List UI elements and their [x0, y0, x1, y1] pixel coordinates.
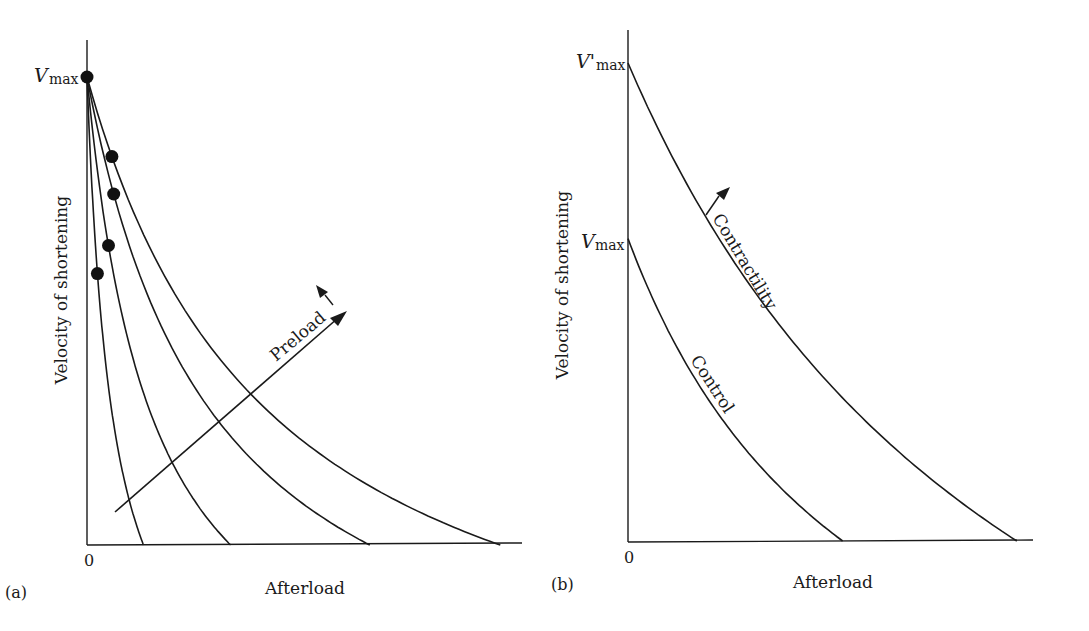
- panel-a-y-axis-label: Velocity of shortening: [51, 196, 71, 385]
- panel-b-curves: [628, 63, 1017, 541]
- panel-b-x-zero-tick: 0: [624, 548, 634, 567]
- panel-a-marker-preload-2: [102, 239, 115, 252]
- panel-a-marker-preload-4: [105, 150, 118, 163]
- panel-a-curve-preload-1: [87, 77, 144, 545]
- panel-a-x-zero-tick: 0: [84, 551, 94, 570]
- panel-b-curve-control: [628, 239, 843, 541]
- panel-a: Preload V max 0 Afterload (a) Velocity o…: [5, 40, 522, 602]
- panel-b-curve-contractility: [628, 63, 1017, 541]
- figure: Preload V max 0 Afterload (a) Velocity o…: [0, 0, 1089, 631]
- panel-b-y-axis-label: Velocity of shortening: [552, 191, 572, 380]
- preload-small-arrow-line: [325, 295, 333, 305]
- preload-arrow-line: [115, 318, 338, 512]
- panel-b-vmax-prime-label-main: V': [576, 50, 595, 72]
- contractility-label: Contractility: [709, 210, 782, 314]
- panel-a-label: (a): [5, 583, 27, 602]
- panel-a-marker-preload-1: [91, 267, 104, 280]
- panel-a-vmax-label-main: V: [34, 64, 50, 86]
- preload-label: Preload: [266, 307, 330, 365]
- panel-a-curves: [87, 77, 500, 545]
- panel-a-curve-preload-4: [87, 77, 500, 545]
- panel-a-x-axis-label: Afterload: [264, 578, 345, 598]
- panel-b-x-axis: [628, 540, 1033, 542]
- contractility-arrow-line: [706, 196, 719, 215]
- panel-a-x-axis: [87, 543, 522, 545]
- panel-b-label: (b): [551, 575, 574, 594]
- panel-b-vmax-label-sub: max: [595, 237, 625, 253]
- panel-a-vmax-marker: [81, 71, 94, 84]
- panel-a-vmax-label-sub: max: [49, 71, 79, 87]
- panel-a-marker-preload-3: [107, 188, 120, 201]
- panel-b-x-axis-label: Afterload: [792, 572, 873, 592]
- panel-b-vmax-prime-label-sub: max: [596, 57, 626, 73]
- panel-a-curve-preload-3: [87, 77, 370, 545]
- panel-b: Contractility Control V' max V max 0 Aft…: [551, 30, 1033, 594]
